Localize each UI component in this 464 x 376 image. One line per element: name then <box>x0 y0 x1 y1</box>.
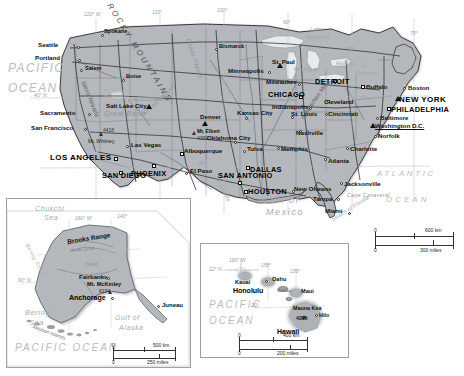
portland-symbol[interactable] <box>78 59 81 62</box>
chukchi-sea-line2: Sea <box>44 214 58 221</box>
cincinnati-label[interactable]: Cincinnati <box>328 111 358 117</box>
charlotte-symbol[interactable] <box>346 147 349 150</box>
detroit-label[interactable]: DETROIT <box>315 78 350 85</box>
boise-label[interactable]: Boise <box>126 74 141 80</box>
hawaii-lon-158: 158° <box>261 263 271 268</box>
washington-dc-label[interactable]: Washington D.C. <box>375 123 424 129</box>
anchorage-symbol[interactable] <box>111 297 114 300</box>
juneau-symbol[interactable] <box>157 305 160 308</box>
norfolk-label[interactable]: Norfolk <box>378 133 400 139</box>
st-paul-label[interactable]: St. Paul <box>272 59 295 65</box>
atlantic-ocean-label-line1: ATLANTIC <box>377 170 436 178</box>
st-louis-label[interactable]: St. Louis <box>291 111 317 117</box>
denver-symbol[interactable] <box>202 121 208 126</box>
el-paso-label[interactable]: El Paso <box>190 168 212 174</box>
hilo-label[interactable]: Hilo <box>319 313 329 318</box>
salem-label[interactable]: Salem <box>85 66 101 72</box>
main-scale-mi-zero: 0 <box>374 247 377 253</box>
baltimore-symbol[interactable] <box>376 117 379 120</box>
norfolk-symbol[interactable] <box>374 135 377 138</box>
main-scale-km-zero: 0 <box>374 227 377 233</box>
honolulu-label[interactable]: Honolulu <box>233 287 263 294</box>
portland-label[interactable]: Portland <box>35 55 60 61</box>
milwaukee-symbol[interactable] <box>298 83 301 86</box>
las-vegas-symbol[interactable] <box>126 145 129 148</box>
seattle-label[interactable]: Seattle <box>38 42 58 48</box>
miami-symbol[interactable] <box>348 212 351 215</box>
boise-symbol[interactable] <box>122 79 125 82</box>
bismarck-symbol[interactable] <box>215 48 218 51</box>
los-angeles-label[interactable]: LOS ANGELES <box>50 154 111 162</box>
cape-canaveral-label: Cape Canaveral <box>347 193 390 198</box>
sacramento-label[interactable]: Sacramento <box>40 110 75 116</box>
boston-symbol[interactable] <box>403 87 406 90</box>
maui-label: Maui <box>301 289 314 295</box>
san-francisco-symbol[interactable] <box>84 128 87 131</box>
buffalo-label[interactable]: Buffalo <box>366 84 387 90</box>
atlanta-label[interactable]: Atlanta <box>328 158 349 164</box>
kansas-city-label[interactable]: Kansas City <box>237 110 272 116</box>
oklahoma-city-symbol[interactable] <box>234 141 237 144</box>
boston-label[interactable]: Boston <box>408 85 429 91</box>
nashville-label[interactable]: Nashville <box>296 130 323 136</box>
seattle-symbol[interactable] <box>77 46 80 49</box>
tampa-label[interactable]: Tampa <box>313 196 332 202</box>
charlotte-label[interactable]: Charlotte <box>350 146 377 152</box>
albuquerque-label[interactable]: Albuquerque <box>184 148 222 154</box>
minneapolis-label[interactable]: Minneapolis <box>228 68 264 74</box>
honolulu-symbol[interactable] <box>265 280 268 283</box>
hilo-symbol[interactable] <box>315 314 318 317</box>
oklahoma-city-label[interactable]: Oklahoma City <box>207 135 250 141</box>
atlanta-symbol[interactable] <box>324 158 327 161</box>
tulsa-label[interactable]: Tulsa <box>247 146 263 152</box>
juneau-label[interactable]: Juneau <box>162 302 183 308</box>
minneapolis-symbol[interactable] <box>268 71 271 74</box>
philadelphia-label[interactable]: PHILADELPHIA <box>391 106 449 113</box>
dallas-label[interactable]: DALLAS <box>250 166 282 173</box>
hawaii-lon-160w: 160° W <box>229 258 245 263</box>
kauai-label: Kauai <box>235 280 250 286</box>
bismarck-label[interactable]: Bismarck <box>219 44 244 50</box>
fairbanks-label[interactable]: Fairbanks <box>79 274 107 280</box>
tulsa-symbol[interactable] <box>243 150 246 153</box>
jacksonville-symbol[interactable] <box>340 182 343 185</box>
new-york-label[interactable]: NEW YORK <box>399 96 446 104</box>
main-scale-mi-max: 300 miles <box>420 247 441 253</box>
lat-label-30: 30° <box>198 161 206 166</box>
mt-whitney-label: Mt. Whitney <box>88 139 114 144</box>
san-antonio-symbol[interactable] <box>238 181 242 185</box>
lake-ontario-line2: Ontario <box>356 70 377 76</box>
el-paso-symbol[interactable] <box>185 172 188 175</box>
baltimore-label[interactable]: Baltimore <box>380 115 409 121</box>
las-vegas-label[interactable]: Las Vegas <box>131 142 161 148</box>
chicago-label[interactable]: CHICAGO <box>268 91 305 98</box>
tampa-symbol[interactable] <box>337 198 340 201</box>
fairbanks-symbol[interactable] <box>107 277 110 280</box>
alaska-scale-km-zero: 0 <box>112 342 115 348</box>
kansas-city-symbol[interactable] <box>245 117 248 120</box>
anchorage-label[interactable]: Anchorage <box>69 294 106 301</box>
salt-lake-city-label[interactable]: Salt Lake City <box>106 103 147 109</box>
phoenix-symbol[interactable] <box>152 164 156 168</box>
denver-label[interactable]: Denver <box>200 114 221 120</box>
lon-label-120w: 120° W <box>84 12 100 17</box>
spokane-label[interactable]: Spokane <box>104 29 127 35</box>
alaska-scale-km-max: 500 km <box>153 342 169 348</box>
cleveland-label[interactable]: Cleveland <box>324 99 353 105</box>
salem-symbol[interactable] <box>80 69 83 72</box>
memphis-label[interactable]: Memphis <box>281 146 308 152</box>
lake-michigan-line2: Michigan <box>294 66 320 72</box>
houston-label[interactable]: HOUSTON <box>248 188 287 195</box>
lon-label-110: 110° <box>152 10 162 15</box>
lat-label-40n: 40° N <box>34 93 47 98</box>
memphis-symbol[interactable] <box>277 147 280 150</box>
new-orleans-label[interactable]: New Orleans <box>294 186 332 192</box>
los-angeles-symbol[interactable] <box>114 157 118 161</box>
phoenix-label[interactable]: PHOENIX <box>131 170 166 177</box>
sacramento-symbol[interactable] <box>88 113 91 116</box>
milwaukee-label[interactable]: Milwaukee <box>266 79 297 85</box>
miami-label[interactable]: Miami <box>325 208 343 214</box>
jacksonville-label[interactable]: Jacksonville <box>344 181 381 187</box>
buffalo-symbol[interactable] <box>361 85 365 89</box>
san-francisco-label[interactable]: San Francisco <box>31 125 73 131</box>
